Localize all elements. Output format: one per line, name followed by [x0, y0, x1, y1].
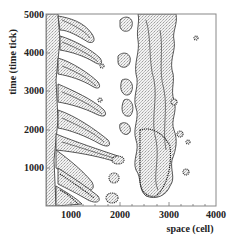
x-tick-label: 2000 [110, 209, 130, 220]
middle-congestion-band [118, 14, 176, 198]
x-axis-label: space (cell) [167, 223, 214, 235]
contour-chart: 1000 2000 3000 4000 1000 2000 3000 4000 … [0, 0, 236, 242]
x-tick-label: 1000 [61, 209, 81, 220]
y-tick-label: 1000 [24, 162, 44, 173]
y-axis-label: time (time tick) [7, 29, 19, 95]
y-tick-label: 5000 [24, 9, 44, 20]
y-tick-label: 4000 [24, 47, 44, 58]
x-tick-label: 3000 [159, 209, 179, 220]
y-tick-label: 3000 [24, 85, 44, 96]
plot-area [46, 14, 198, 206]
y-tick-label: 2000 [24, 124, 44, 135]
x-tick-label: 4000 [206, 209, 226, 220]
